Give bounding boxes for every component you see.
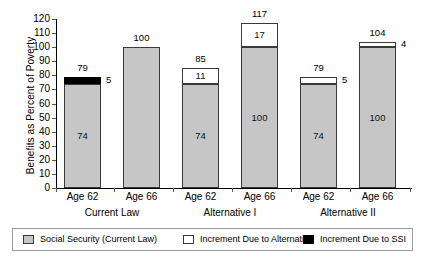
y-tick-label: 80 xyxy=(39,70,50,80)
segment-value-label-outside: 5 xyxy=(106,75,111,85)
y-axis-line xyxy=(56,19,57,189)
bar-3[interactable]: 1174 xyxy=(182,68,219,188)
y-tick xyxy=(52,19,56,20)
segment-value-label: 11 xyxy=(196,71,206,81)
y-tick-label: 90 xyxy=(39,56,50,66)
legend-label: Increment Due to SSI xyxy=(320,235,406,244)
chart-legend: Social Security (Current Law)Increment D… xyxy=(12,228,413,251)
y-tick xyxy=(52,160,56,161)
bar-segment: 74 xyxy=(300,84,337,188)
x-axis-category-label: Age 66 xyxy=(346,192,409,202)
legend-swatch-icon xyxy=(303,235,314,244)
legend-label: Social Security (Current Law) xyxy=(40,235,157,244)
bar-segment xyxy=(300,77,337,84)
bar-5[interactable]: 74 xyxy=(300,77,337,188)
segment-value-label: 100 xyxy=(370,113,386,123)
y-tick xyxy=(52,104,56,105)
segment-value-label-outside: 5 xyxy=(342,75,347,85)
bar-segment: 17 xyxy=(241,23,278,47)
y-tick-label: 120 xyxy=(33,14,50,24)
bar-total-label: 104 xyxy=(359,28,396,38)
y-tick-label: 50 xyxy=(39,113,50,123)
x-axis-category-label: Age 62 xyxy=(51,192,114,202)
y-tick xyxy=(52,75,56,76)
x-axis-category-label: Age 66 xyxy=(228,192,291,202)
bar-4[interactable]: 17100 xyxy=(241,23,278,188)
bar-segment xyxy=(123,47,160,188)
bar-segment: 74 xyxy=(182,84,219,188)
x-axis-category-label: Age 66 xyxy=(110,192,173,202)
bar-total-label: 79 xyxy=(64,63,101,73)
bar-segment xyxy=(64,77,101,84)
legend-label: Increment Due to Alternative xyxy=(200,235,314,244)
bar-segment: 100 xyxy=(241,47,278,188)
y-tick-label: 30 xyxy=(39,141,50,151)
chart-container: Benefits as Percent of Poverty 010203040… xyxy=(0,0,423,257)
segment-value-label: 74 xyxy=(195,131,206,141)
x-axis-group-label: Alternative II xyxy=(300,208,396,218)
plot-area: 0102030405060708090100110120 74795100117… xyxy=(56,19,411,188)
segment-value-label: 100 xyxy=(252,113,268,123)
legend-item[interactable]: Increment Due to Alternative xyxy=(183,235,314,244)
y-tick-label: 10 xyxy=(39,169,50,179)
legend-item[interactable]: Social Security (Current Law) xyxy=(23,235,157,244)
segment-value-label: 74 xyxy=(77,131,88,141)
y-tick-label: 20 xyxy=(39,155,50,165)
y-tick xyxy=(52,146,56,147)
y-tick xyxy=(52,47,56,48)
y-tick-label: 40 xyxy=(39,127,50,137)
bar-1[interactable]: 74 xyxy=(64,77,101,188)
y-tick xyxy=(52,132,56,133)
y-tick-label: 110 xyxy=(34,28,50,38)
bar-6[interactable]: 100 xyxy=(359,42,396,188)
bar-segment: 11 xyxy=(182,68,219,83)
y-tick-label: 70 xyxy=(39,84,50,94)
bar-segment: 100 xyxy=(359,47,396,188)
y-tick xyxy=(52,89,56,90)
x-axis-category-label: Age 62 xyxy=(287,192,350,202)
legend-swatch-icon xyxy=(183,235,194,244)
y-tick xyxy=(52,118,56,119)
bar-total-label: 79 xyxy=(300,63,337,73)
y-tick xyxy=(52,174,56,175)
bar-total-label: 85 xyxy=(182,54,219,64)
x-axis-category-label: Age 62 xyxy=(169,192,232,202)
y-tick-label: 100 xyxy=(33,42,50,52)
legend-swatch-icon xyxy=(23,235,34,244)
bar-2[interactable] xyxy=(123,47,160,188)
y-tick xyxy=(52,33,56,34)
y-tick xyxy=(52,61,56,62)
x-axis-labels: Age 62Age 66Age 62Age 66Age 62Age 66Curr… xyxy=(0,192,423,226)
bar-total-label: 117 xyxy=(241,9,278,19)
x-axis-group-label: Alternative I xyxy=(182,208,278,218)
legend-item[interactable]: Increment Due to SSI xyxy=(303,235,406,244)
segment-value-label: 17 xyxy=(254,30,265,40)
segment-value-label-outside: 4 xyxy=(401,39,406,49)
bar-total-label: 100 xyxy=(123,33,160,43)
y-tick-label: 60 xyxy=(39,99,50,109)
x-axis-line xyxy=(56,188,412,189)
segment-value-label: 74 xyxy=(313,131,324,141)
x-axis-group-label: Current Law xyxy=(64,208,160,218)
bar-segment: 74 xyxy=(64,84,101,188)
